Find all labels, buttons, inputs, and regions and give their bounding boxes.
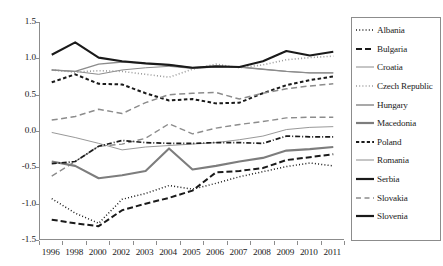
series-line-slovenia: [52, 42, 334, 67]
y-axis-tick-label: 1.0: [2, 54, 36, 63]
legend-line-swatch: [356, 155, 374, 165]
plot-wrapper: 1.51.00.50.0-0.5-1.0-1.5 199619982000200…: [0, 0, 352, 266]
series-lines: [40, 22, 345, 240]
chart-legend: AlbaniaBulgariaCroatiaCzech RepublicHung…: [351, 17, 441, 241]
legend-item-label: Croatia: [377, 62, 403, 72]
y-axis-tick-label: -1.0: [2, 199, 36, 208]
plot-area: [39, 22, 344, 240]
y-axis-tick-label: 0.0: [2, 126, 36, 135]
legend-item-croatia[interactable]: Croatia: [352, 58, 440, 77]
legend-item-label: Serbia: [377, 174, 399, 184]
legend-item-poland[interactable]: Poland: [352, 133, 440, 152]
legend-item-label: Slovenia: [377, 211, 408, 221]
legend-item-label: Romania: [377, 155, 409, 165]
legend-line-swatch: [356, 137, 374, 147]
legend-item-label: Hungary: [377, 100, 408, 110]
y-axis-tick-mark: [36, 95, 40, 96]
x-axis-tick-mark: [180, 241, 181, 245]
legend-line-swatch: [356, 44, 374, 54]
x-axis-tick-mark: [274, 241, 275, 245]
legend-line-swatch: [356, 81, 374, 91]
y-axis-tick-mark: [36, 240, 40, 241]
legend-item-macedonia[interactable]: Macedonia: [352, 114, 440, 133]
x-axis-tick-mark: [86, 241, 87, 245]
legend-item-bulgaria[interactable]: Bulgaria: [352, 40, 440, 59]
legend-line-swatch: [356, 174, 374, 184]
legend-line-swatch: [356, 100, 374, 110]
legend-item-slovakia[interactable]: Slovakia: [352, 188, 440, 207]
x-axis-tick-mark: [297, 241, 298, 245]
series-line-bulgaria: [52, 154, 334, 226]
x-axis-tick-label: 2011: [312, 247, 352, 258]
y-axis-tick-mark: [36, 131, 40, 132]
y-axis-tick-mark: [36, 58, 40, 59]
y-axis-tick-label: 0.5: [2, 90, 36, 99]
x-axis-tick-mark: [344, 241, 345, 245]
legend-item-romania[interactable]: Romania: [352, 151, 440, 170]
legend-item-label: Bulgaria: [377, 44, 407, 54]
y-axis-tick-label: -1.5: [2, 235, 36, 244]
y-axis: 1.51.00.50.0-0.5-1.0-1.5: [0, 22, 36, 240]
x-axis-tick-mark: [156, 241, 157, 245]
legend-item-label: Macedonia: [377, 118, 416, 128]
legend-line-swatch: [356, 25, 374, 35]
legend-item-slovenia[interactable]: Slovenia: [352, 207, 440, 226]
legend-item-albania[interactable]: Albania: [352, 21, 440, 40]
legend-line-swatch: [356, 211, 374, 221]
legend-item-hungary[interactable]: Hungary: [352, 95, 440, 114]
legend-item-label: Czech Republic: [377, 81, 433, 91]
legend-item-label: Slovakia: [377, 193, 408, 203]
series-line-romania-upper: [52, 117, 334, 176]
y-axis-tick-label: 1.5: [2, 17, 36, 26]
series-line-albania: [52, 163, 334, 223]
y-axis-tick-label: -0.5: [2, 163, 36, 172]
series-line-macedonia: [52, 147, 334, 178]
legend-line-swatch: [356, 118, 374, 128]
legend-item-serbia[interactable]: Serbia: [352, 170, 440, 189]
line-chart: 1.51.00.50.0-0.5-1.0-1.5 199619982000200…: [0, 0, 443, 266]
x-axis: 1996199820002002200320042005200620072008…: [39, 241, 344, 263]
legend-item-label: Albania: [377, 25, 405, 35]
legend-line-swatch: [356, 193, 374, 203]
series-line-slovakia: [52, 84, 334, 120]
series-line-poland: [52, 74, 334, 103]
x-axis-tick-mark: [109, 241, 110, 245]
y-axis-tick-mark: [36, 167, 40, 168]
legend-item-label: Poland: [377, 137, 401, 147]
series-line-romania: [52, 127, 334, 150]
x-axis-tick-mark: [250, 241, 251, 245]
x-axis-tick-mark: [62, 241, 63, 245]
x-axis-tick-mark: [39, 241, 40, 245]
y-axis-tick-mark: [36, 204, 40, 205]
x-axis-tick-mark: [133, 241, 134, 245]
legend-item-czech-republic[interactable]: Czech Republic: [352, 77, 440, 96]
legend-line-swatch: [356, 62, 374, 72]
x-axis-tick-mark: [227, 241, 228, 245]
x-axis-tick-mark: [321, 241, 322, 245]
x-axis-tick-mark: [203, 241, 204, 245]
y-axis-tick-mark: [36, 22, 40, 23]
